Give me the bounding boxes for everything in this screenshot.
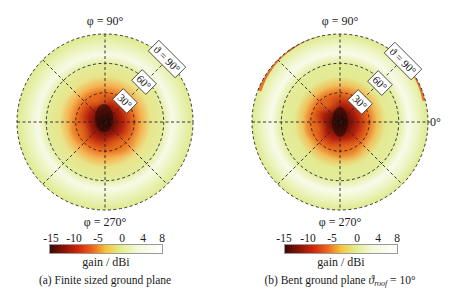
colorbar-tick: -15: [43, 233, 58, 245]
caption-text: (b) Bent ground plane: [264, 274, 368, 286]
colorbar-tick: -10: [300, 233, 315, 245]
colorbar-tick: -10: [66, 233, 81, 245]
colorbar-tick: 4: [375, 233, 381, 245]
colorbar-tick: 8: [159, 233, 165, 245]
phi-top-label: φ = 90°: [322, 15, 359, 27]
panel-b: ϑ = 90° 60° 30° φ = 90° φ = 270° 0° -15 …: [227, 0, 454, 299]
colorbar-label: gain / dBi: [82, 256, 129, 268]
colorbar: [284, 244, 398, 254]
colorbar-tick: 8: [394, 233, 400, 245]
colorbar-tick: 0: [119, 233, 125, 245]
colorbar-tick: -5: [93, 233, 103, 245]
caption-subscript: roof: [374, 279, 387, 288]
colorbar-tick: 0: [354, 233, 360, 245]
colorbar-label: gain / dBi: [317, 256, 364, 268]
colorbar-tick: 4: [140, 233, 146, 245]
caption-b: (b) Bent ground plane ϑroof = 10°: [264, 274, 415, 288]
caption-value: = 10°: [387, 274, 415, 286]
phi-bottom-label: φ = 270°: [319, 216, 362, 228]
colorbar: [49, 244, 163, 254]
polar-plot-b: ϑ = 90° 60° 30°: [227, 0, 454, 235]
phi-right-label: 0°: [430, 116, 441, 128]
caption-a: (a) Finite sized ground plane: [39, 274, 171, 286]
colorbar-tick: -5: [327, 233, 337, 245]
phi-bottom-label: φ = 270°: [84, 216, 127, 228]
phi-top-label: φ = 90°: [87, 15, 124, 27]
panel-a: ϑ = 90° 60° 30° φ = 90° φ = 270° -15 -10…: [0, 0, 227, 299]
colorbar-tick: -15: [276, 233, 291, 245]
polar-plot-a: ϑ = 90° 60° 30°: [0, 0, 227, 235]
